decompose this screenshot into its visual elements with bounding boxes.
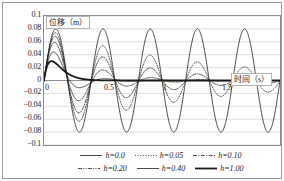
- y-tick-label: 0.1: [3, 11, 41, 19]
- legend-label: h=0.0: [105, 152, 124, 160]
- y-axis-tick-labels: 0.10.080.060.040.020−0.02−0.04−0.06−0.08…: [3, 3, 41, 146]
- legend-label: h=1.00: [220, 165, 243, 173]
- x-axis-title: 时间（s）: [231, 73, 272, 86]
- legend-label: h=0.10: [218, 152, 241, 160]
- legend-item[interactable]: h=0.20: [78, 165, 126, 173]
- chart-root: 0.10.080.060.040.020−0.02−0.04−0.06−0.08…: [0, 0, 284, 181]
- y-tick-label: −0.02: [3, 88, 41, 96]
- x-tick-label: 0.5: [104, 84, 114, 92]
- series-line: [44, 42, 280, 100]
- y-tick-label: 0: [3, 76, 41, 84]
- legend-item[interactable]: h=0.40: [137, 165, 185, 173]
- y-tick-label: 0.04: [3, 50, 41, 58]
- y-tick-label: −0.06: [3, 114, 41, 122]
- legend-row: h=0.20h=0.40h=1.00: [41, 162, 281, 175]
- legend-swatch: [137, 165, 159, 172]
- legend-item[interactable]: h=0.0: [80, 152, 124, 160]
- x-tick-label: 0: [45, 84, 49, 92]
- y-tick-label: −0.08: [3, 127, 41, 135]
- legend-label: h=0.40: [162, 165, 185, 173]
- legend-item[interactable]: h=0.10: [193, 152, 241, 160]
- legend-label: h=0.20: [103, 165, 126, 173]
- legend-item[interactable]: h=0.05: [135, 152, 183, 160]
- legend-swatch: [135, 152, 157, 159]
- legend-swatch: [80, 152, 102, 159]
- chart-frame: 0.10.080.060.040.020−0.02−0.04−0.06−0.08…: [2, 2, 282, 179]
- y-tick-label: 0.08: [3, 24, 41, 32]
- legend-swatch: [78, 165, 100, 172]
- chart-legend: h=0.0h=0.05h=0.10h=0.20h=0.40h=1.00: [41, 149, 281, 179]
- y-tick-label: −0.04: [3, 101, 41, 109]
- legend-item[interactable]: h=1.00: [195, 165, 243, 173]
- legend-swatch: [193, 152, 215, 159]
- legend-swatch: [195, 165, 217, 172]
- legend-label: h=0.05: [160, 152, 183, 160]
- y-tick-label: 0.06: [3, 37, 41, 45]
- y-tick-label: −0.1: [3, 140, 41, 148]
- y-axis-title: 位移（m）: [46, 16, 90, 29]
- y-tick-label: 0.02: [3, 63, 41, 71]
- legend-row: h=0.0h=0.05h=0.10: [41, 149, 281, 162]
- x-tick-label: 1: [163, 84, 167, 92]
